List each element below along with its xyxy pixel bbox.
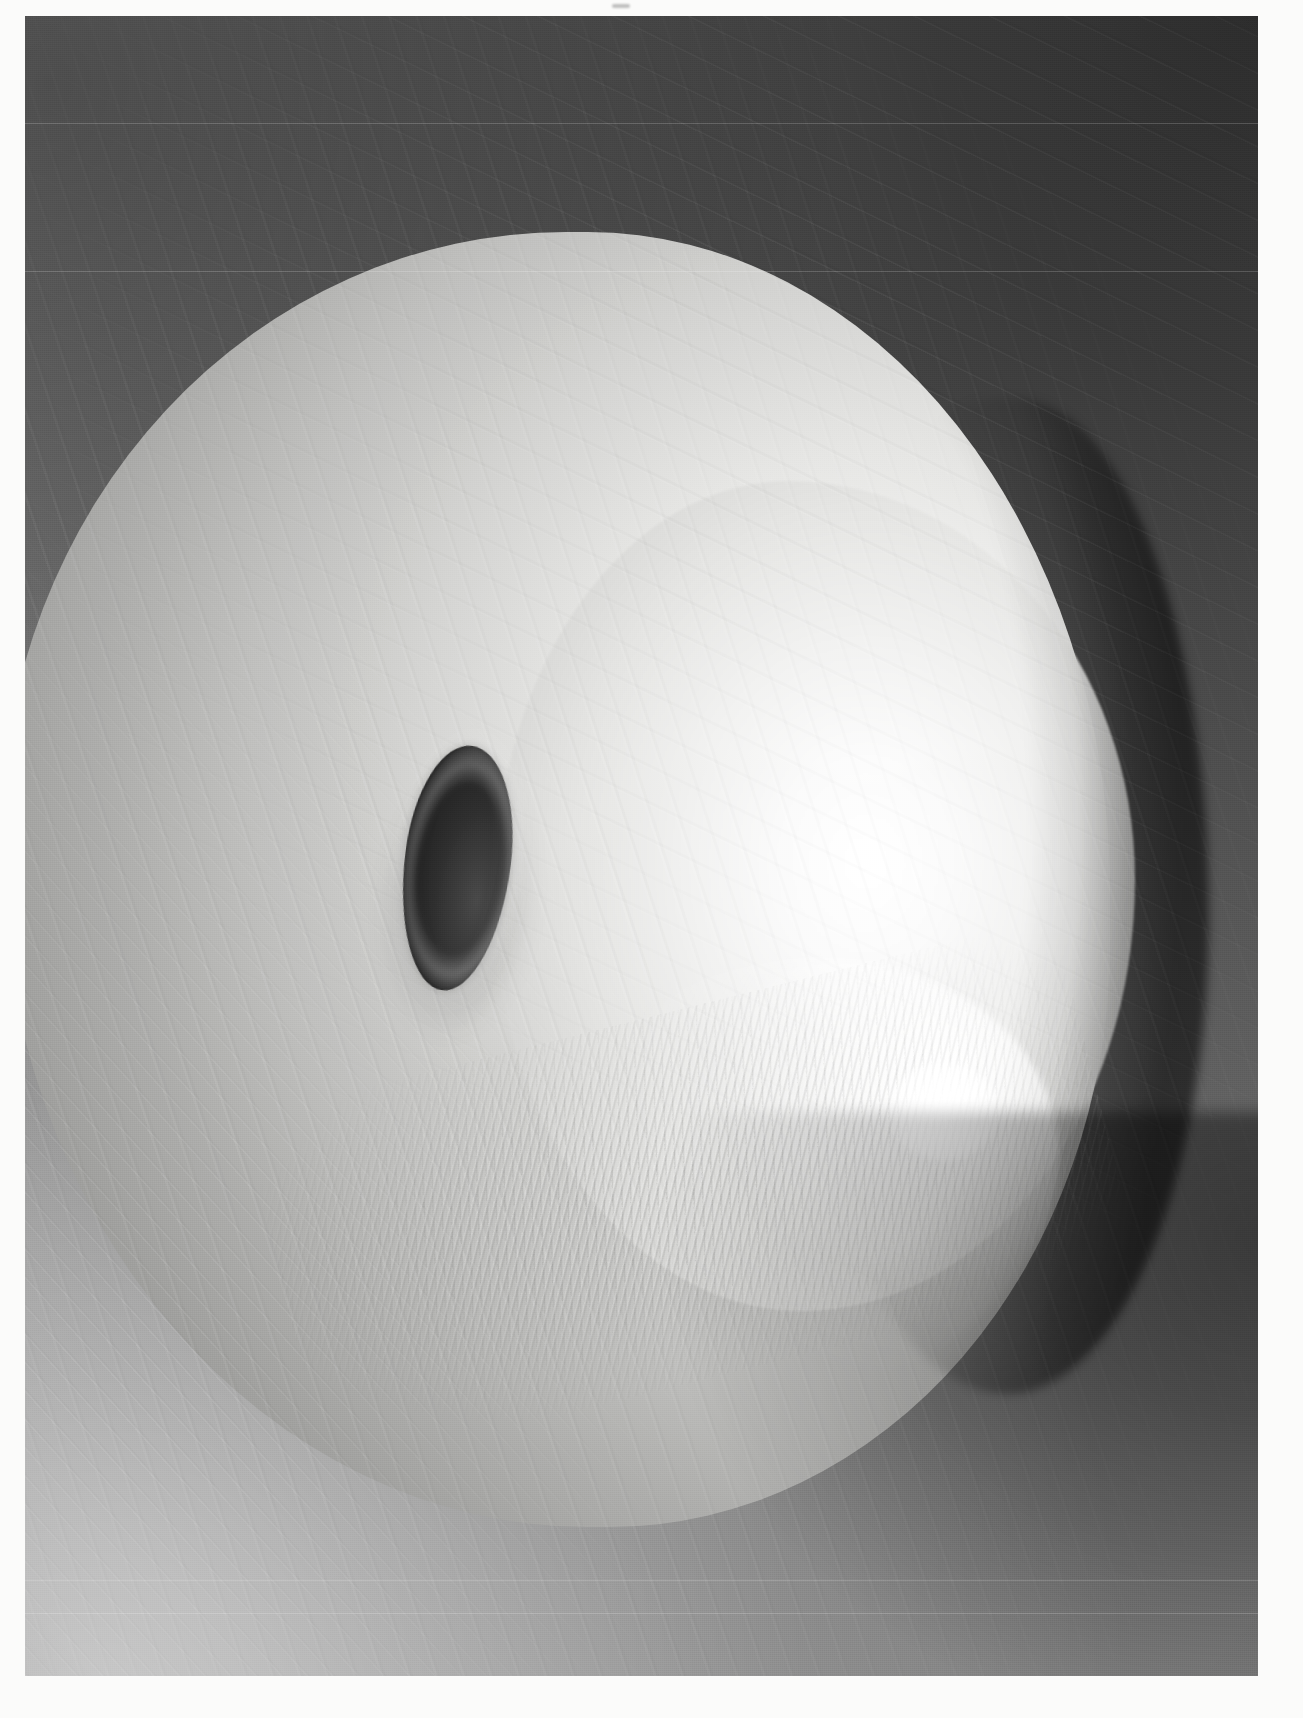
- photographic-plate: [25, 16, 1258, 1676]
- photograph-page: Carved sculpture interior Close view of …: [0, 0, 1303, 1718]
- lower-right-mass: [469, 1112, 1258, 1676]
- dust-speck: [612, 4, 630, 8]
